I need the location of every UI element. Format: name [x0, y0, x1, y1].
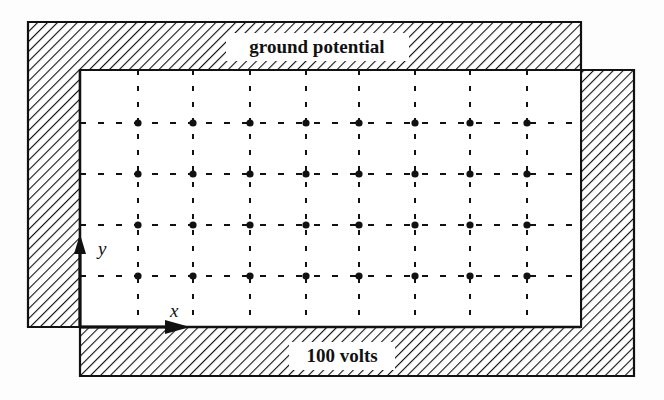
- grid-node: [134, 221, 141, 228]
- grid-node: [523, 221, 530, 228]
- grid-node: [246, 170, 253, 177]
- grid-node: [134, 119, 141, 126]
- grid-node: [411, 221, 418, 228]
- x-axis-label: x: [169, 300, 179, 321]
- grid-node: [355, 272, 362, 279]
- grid-node: [523, 170, 530, 177]
- grid-node: [302, 170, 309, 177]
- ground-potential-label: ground potential: [249, 36, 384, 57]
- grid-node: [134, 170, 141, 177]
- grid-node: [246, 119, 253, 126]
- grid-node: [523, 119, 530, 126]
- grid-node: [411, 170, 418, 177]
- voltage-label: 100 volts: [306, 345, 377, 366]
- grid-node: [302, 221, 309, 228]
- potential-grid-diagram: ground potential 100 volts y x: [0, 0, 664, 400]
- grid-node: [466, 272, 473, 279]
- grid-node: [189, 170, 196, 177]
- y-axis-label: y: [96, 238, 107, 259]
- grid-node: [466, 221, 473, 228]
- grid-node: [466, 170, 473, 177]
- grid-node: [246, 221, 253, 228]
- grid-node: [355, 170, 362, 177]
- grid-node: [302, 119, 309, 126]
- interior-region: [81, 71, 580, 326]
- grid-node: [355, 119, 362, 126]
- grid-node: [466, 119, 473, 126]
- grid-node: [134, 272, 141, 279]
- grid-node: [411, 272, 418, 279]
- grid-node: [189, 221, 196, 228]
- grid-node: [246, 272, 253, 279]
- grid-node: [302, 272, 309, 279]
- grid-node: [189, 119, 196, 126]
- grid-node: [523, 272, 530, 279]
- grid-node: [355, 221, 362, 228]
- grid-node: [189, 272, 196, 279]
- grid-node: [411, 119, 418, 126]
